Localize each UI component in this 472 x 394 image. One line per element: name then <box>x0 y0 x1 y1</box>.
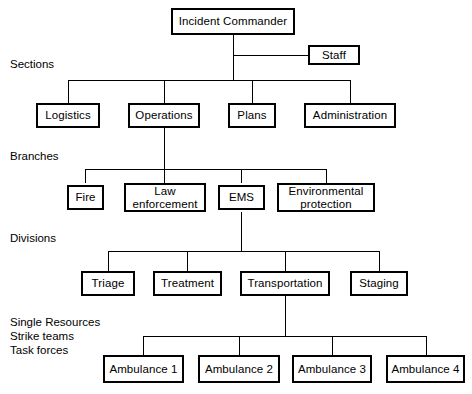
node-logistics-label: Logistics <box>42 109 94 122</box>
node-law-enforcement-label: Law enforcement <box>129 185 200 210</box>
node-triage[interactable]: Triage <box>81 271 135 296</box>
connector-drop-staging <box>379 251 380 271</box>
connector-sections-bus <box>68 80 350 81</box>
node-operations[interactable]: Operations <box>128 103 200 128</box>
connector-divisions-bus <box>108 251 379 252</box>
node-plans[interactable]: Plans <box>228 103 276 128</box>
node-staging-label: Staging <box>356 277 402 290</box>
tier-label-branches: Branches <box>10 149 59 163</box>
connector-drop-logistics <box>68 80 69 103</box>
connector-drop-ambulance-2 <box>239 336 240 355</box>
connector-branches-bus <box>85 169 326 170</box>
node-administration-label: Administration <box>310 109 390 122</box>
node-ambulance-2[interactable]: Ambulance 2 <box>198 355 280 383</box>
node-ambulance-4-label: Ambulance 4 <box>388 363 462 376</box>
node-fire-label: Fire <box>72 191 98 204</box>
connector-drop-ambulance-3 <box>332 336 333 355</box>
connector-drop-administration <box>350 80 351 103</box>
node-logistics[interactable]: Logistics <box>36 103 100 128</box>
connector-drop-operations <box>164 80 165 103</box>
connector-drop-environmental-protection <box>326 169 327 183</box>
node-ambulance-1[interactable]: Ambulance 1 <box>103 355 184 383</box>
node-ems-label: EMS <box>226 191 257 204</box>
tier-label-resources: Single Resources Strike teams Task force… <box>10 315 100 357</box>
node-staff[interactable]: Staff <box>308 45 360 65</box>
node-incident-commander[interactable]: Incident Commander <box>171 8 295 35</box>
node-staging[interactable]: Staging <box>350 271 408 296</box>
node-transportation[interactable]: Transportation <box>240 271 330 296</box>
connector-drop-law-enforcement <box>164 169 165 183</box>
connector-drop-ambulance-1 <box>143 336 144 355</box>
connector-drop-triage <box>108 251 109 271</box>
tier-label-sections: Sections <box>10 57 54 71</box>
connector-drop-treatment <box>187 251 188 271</box>
node-environmental-protection[interactable]: Environmental protection <box>277 183 375 212</box>
node-ambulance-4[interactable]: Ambulance 4 <box>386 355 465 383</box>
node-law-enforcement[interactable]: Law enforcement <box>124 183 206 212</box>
node-incident-commander-label: Incident Commander <box>176 15 291 28</box>
node-ambulance-3-label: Ambulance 3 <box>295 363 369 376</box>
connector-transportation-trunk <box>285 296 286 336</box>
connector-ic-trunk <box>233 35 234 80</box>
connector-drop-ems <box>241 169 242 183</box>
node-treatment[interactable]: Treatment <box>153 271 222 296</box>
node-ems[interactable]: EMS <box>218 185 265 210</box>
connector-resources-bus <box>143 336 426 337</box>
connector-operations-trunk <box>164 128 165 169</box>
node-ambulance-2-label: Ambulance 2 <box>202 363 276 376</box>
connector-drop-plans <box>252 80 253 103</box>
connector-drop-ambulance-4 <box>426 336 427 355</box>
node-plans-label: Plans <box>234 109 269 122</box>
connector-drop-transportation <box>285 251 286 271</box>
connector-drop-fire <box>85 169 86 183</box>
connector-ems-trunk <box>241 212 242 251</box>
node-environmental-protection-label: Environmental protection <box>286 185 367 210</box>
node-treatment-label: Treatment <box>158 277 217 290</box>
tier-label-divisions: Divisions <box>10 231 56 245</box>
node-operations-label: Operations <box>132 109 195 122</box>
node-transportation-label: Transportation <box>244 277 325 290</box>
node-fire[interactable]: Fire <box>67 185 104 210</box>
node-ambulance-1-label: Ambulance 1 <box>106 363 180 376</box>
connector-ic-to-staff <box>233 55 308 56</box>
node-ambulance-3[interactable]: Ambulance 3 <box>292 355 372 383</box>
node-staff-label: Staff <box>319 49 349 62</box>
org-chart-canvas: Sections Branches Divisions Single Resou… <box>0 0 472 394</box>
node-administration[interactable]: Administration <box>304 103 396 128</box>
node-triage-label: Triage <box>89 277 128 290</box>
